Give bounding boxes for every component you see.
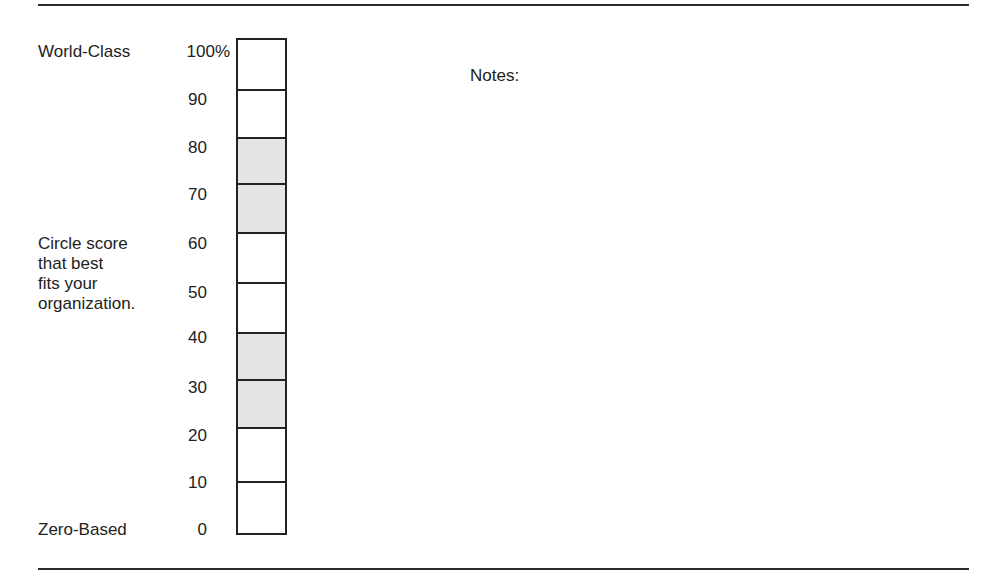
- score-cell-20-30[interactable]: [238, 381, 285, 429]
- score-cell-70-80[interactable]: [238, 139, 285, 185]
- tick-label-40: 40: [147, 328, 207, 348]
- score-cell-0-10[interactable]: [238, 483, 285, 533]
- zero-based-label: Zero-Based: [38, 520, 127, 540]
- top-rule: [38, 4, 969, 6]
- instructions-line: fits your: [38, 274, 135, 294]
- tick-label-100: 100%: [170, 42, 230, 62]
- score-cell-10-20[interactable]: [238, 429, 285, 483]
- score-cell-60-70[interactable]: [238, 185, 285, 234]
- notes-label: Notes:: [470, 66, 519, 86]
- tick-label-90: 90: [147, 90, 207, 110]
- instructions-line: organization.: [38, 294, 135, 314]
- tick-label-50: 50: [147, 283, 207, 303]
- score-cell-40-50[interactable]: [238, 284, 285, 334]
- instructions-text: Circle score that best fits your organiz…: [38, 234, 135, 314]
- tick-label-10: 10: [147, 473, 207, 493]
- world-class-label: World-Class: [38, 42, 130, 62]
- tick-label-70: 70: [147, 185, 207, 205]
- tick-label-0: 0: [147, 520, 207, 540]
- score-cell-90-100[interactable]: [238, 40, 285, 91]
- tick-label-60: 60: [147, 234, 207, 254]
- bottom-rule: [38, 568, 969, 570]
- score-cell-30-40[interactable]: [238, 334, 285, 381]
- score-cell-80-90[interactable]: [238, 91, 285, 139]
- tick-label-80: 80: [147, 138, 207, 158]
- tick-label-30: 30: [147, 378, 207, 398]
- score-scale: [236, 38, 287, 535]
- score-cell-50-60[interactable]: [238, 234, 285, 284]
- tick-label-20: 20: [147, 426, 207, 446]
- instructions-line: that best: [38, 254, 135, 274]
- instructions-line: Circle score: [38, 234, 135, 254]
